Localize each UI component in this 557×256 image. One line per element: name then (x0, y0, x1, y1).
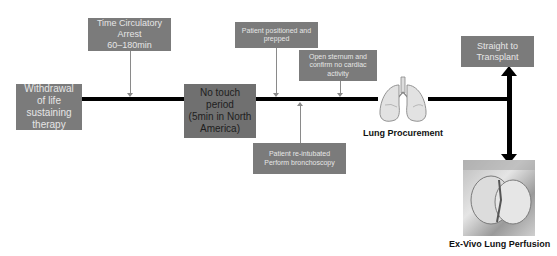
sternum-line1: Open sternum and (309, 53, 367, 61)
no-touch-line2: period (206, 99, 234, 111)
sternum-arrow-icon (337, 93, 343, 97)
no-touch-line3: (5min in North (189, 111, 252, 123)
reintubated-line1: Patient re-intubated (269, 150, 330, 158)
no-touch-period-box: No touch period (5min in North America) (184, 84, 256, 138)
time-circulatory-arrest-box: Time Circulatory Arrest 60–180min (88, 18, 171, 51)
no-touch-line4: America) (200, 123, 240, 135)
reintubated-connector (300, 106, 301, 143)
sternum-line3: activity (327, 70, 348, 78)
sternum-line2: confirm no cardiac (309, 61, 366, 69)
transplant-line1: Straight to (477, 41, 518, 52)
straight-to-transplant-box: Straight to Transplant (461, 36, 534, 67)
lungs-icon (377, 75, 429, 125)
open-sternum-box: Open sternum and confirm no cardiac acti… (299, 50, 377, 81)
lung-procurement-caption: Lung Procurement (363, 128, 443, 138)
time-arrest-arrow-icon (127, 93, 133, 97)
withdrawal-label: Withdrawal of life sustaining therapy (19, 83, 79, 131)
timeline-segment-2 (256, 97, 378, 101)
time-arrest-connector (130, 51, 131, 93)
patient-reintubated-box: Patient re-intubated Perform bronchoscop… (253, 143, 346, 174)
reintubated-line2: Perform bronchoscopy (264, 159, 334, 167)
branch-vertical-line (507, 74, 512, 154)
timeline-segment-1 (82, 97, 184, 101)
positioned-arrow-icon (273, 93, 279, 97)
time-arrest-line3: 60–180min (107, 40, 152, 51)
reintubated-arrow-icon (297, 102, 303, 106)
patient-positioned-box: Patient positioned and prepped (235, 22, 318, 48)
evlp-caption: Ex-Vivo Lung Perfusion (449, 239, 550, 249)
sternum-connector (340, 81, 341, 93)
positioned-line2: prepped (264, 35, 290, 43)
arrow-up-to-transplant-icon (501, 66, 517, 76)
time-arrest-line1: Time Circulatory (97, 18, 162, 29)
timeline-segment-3 (428, 97, 508, 101)
no-touch-line1: No touch (200, 87, 240, 99)
withdrawal-box: Withdrawal of life sustaining therapy (16, 84, 82, 130)
time-arrest-line2: Arrest (117, 29, 141, 40)
positioned-connector (276, 48, 277, 93)
positioned-line1: Patient positioned and (242, 27, 311, 35)
transplant-line2: Transplant (476, 52, 518, 63)
ex-vivo-lung-photo (463, 160, 535, 236)
